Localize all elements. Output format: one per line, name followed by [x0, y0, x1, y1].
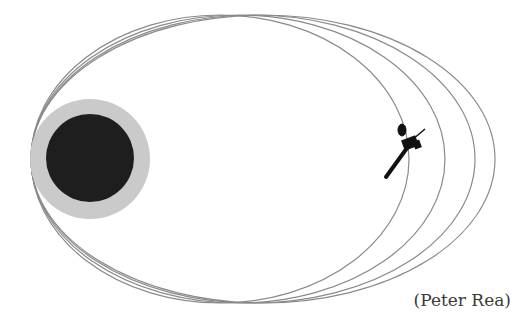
image-credit: (Peter Rea) — [414, 290, 511, 310]
spacecraft-icon — [386, 124, 425, 177]
planet-core — [46, 114, 134, 202]
orbit-diagram — [0, 0, 520, 322]
